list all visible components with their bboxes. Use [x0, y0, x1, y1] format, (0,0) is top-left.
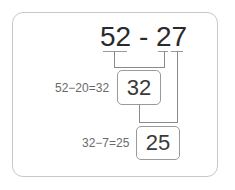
step-2-equation: 32−7=25 — [82, 136, 129, 150]
underline-52 — [103, 51, 127, 52]
connector-32 — [139, 105, 140, 123]
step-1-result-box: 32 — [117, 70, 161, 105]
connector-20 — [164, 51, 165, 67]
step-2-result-box: 25 — [136, 126, 180, 160]
underline-tens-digit — [158, 51, 168, 52]
step-1-result: 32 — [127, 75, 151, 101]
connector-7 — [177, 51, 178, 123]
step-2-result: 25 — [146, 130, 170, 156]
subtraction-expression: 52 - 27 — [100, 23, 187, 51]
connector-bracket-1 — [114, 67, 165, 68]
connector-52 — [114, 51, 115, 67]
step-1-equation: 52−20=32 — [55, 81, 109, 95]
connector-bracket-2 — [139, 122, 178, 123]
